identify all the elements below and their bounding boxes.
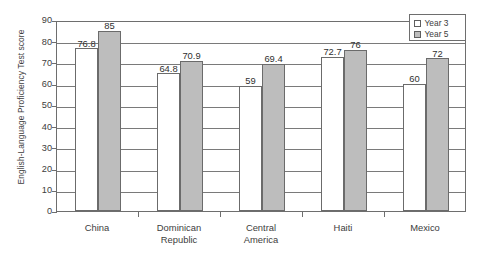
bar-value-label: 59 <box>232 76 269 86</box>
y-axis-tick-label: 40 <box>30 123 52 132</box>
x-axis-tick-mark <box>138 212 139 217</box>
y-axis-tick-mark <box>52 212 57 213</box>
x-axis-tick-mark <box>220 212 221 217</box>
legend-swatch-year3-icon <box>414 20 421 27</box>
plot-area: 76.88564.870.95969.472.7766072 <box>56 21 466 212</box>
bar-value-label: 76 <box>337 40 374 50</box>
bar-value-label: 85 <box>91 21 128 31</box>
x-axis-tick-marks <box>56 212 466 218</box>
bar-value-label: 70.9 <box>173 51 210 61</box>
y-axis-tick-label: 80 <box>30 38 52 47</box>
x-axis-category-label: China <box>56 222 138 234</box>
bar-value-label: 76.8 <box>68 39 105 49</box>
y-axis-tick-label: 0 <box>30 207 52 216</box>
legend-label-year3: Year 3 <box>425 19 449 28</box>
y-axis-title: English-Language Proficiency Test score <box>14 1 28 213</box>
y-axis-tick-mark <box>52 21 57 22</box>
bar-year5 <box>98 31 121 211</box>
bar-year5 <box>180 61 203 211</box>
legend-item-year3: Year 3 <box>414 18 465 29</box>
y-axis-tick-label: 70 <box>30 59 52 68</box>
y-axis-tick-label: 20 <box>30 165 52 174</box>
x-axis-category-label: Mexico <box>384 222 466 234</box>
y-axis-tick-label: 90 <box>30 16 52 25</box>
bar-value-label: 72 <box>419 49 456 59</box>
bar-value-label: 60 <box>396 74 433 84</box>
x-axis-category-label: Central America <box>220 222 302 245</box>
bar-value-label: 69.4 <box>255 54 292 64</box>
legend-label-year5: Year 5 <box>425 30 449 39</box>
legend-swatch-year5-icon <box>414 31 421 38</box>
bar-value-label: 64.8 <box>150 64 187 74</box>
bar-chart: English-Language Proficiency Test score … <box>0 0 482 259</box>
x-axis-tick-mark <box>302 212 303 217</box>
y-axis-tick-label: 30 <box>30 144 52 153</box>
x-axis-category-label: Haiti <box>302 222 384 234</box>
bar-year3 <box>75 48 98 211</box>
bar-year3 <box>157 73 180 211</box>
y-axis-tick-labels: 0102030405060708090 <box>28 21 52 212</box>
bar-year5 <box>344 50 367 211</box>
legend-item-year5: Year 5 <box>414 30 465 41</box>
x-axis-category-label: Dominican Republic <box>138 222 220 245</box>
bar-year3 <box>321 57 344 211</box>
bar-year3 <box>239 86 262 211</box>
y-axis-tick-label: 50 <box>30 101 52 110</box>
x-axis-tick-mark <box>384 212 385 217</box>
chart-legend: Year 3 Year 5 <box>409 14 466 41</box>
y-axis-tick-label: 10 <box>30 186 52 195</box>
y-axis-tick-label: 60 <box>30 80 52 89</box>
bar-year3 <box>403 84 426 211</box>
